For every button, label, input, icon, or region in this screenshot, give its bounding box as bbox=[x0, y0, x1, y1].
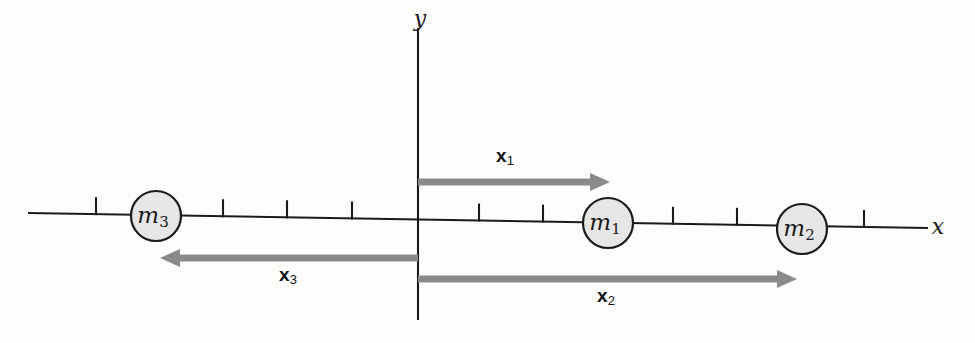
vector-x3-subscript: 3 bbox=[290, 272, 297, 287]
vector-x1-subscript: 1 bbox=[507, 153, 514, 168]
mass-m3-subscript: 3 bbox=[159, 213, 169, 231]
y-axis-label: y bbox=[413, 6, 427, 31]
vector-x1-label: x1 bbox=[496, 145, 514, 168]
vector-x2-symbol: x bbox=[597, 285, 608, 306]
mass-m3: m3 bbox=[131, 191, 181, 241]
vector-x3: x3 bbox=[160, 249, 418, 287]
vector-x3-arrowhead bbox=[160, 249, 180, 267]
figure-canvas: x y x1 x2 x3 m3 bbox=[0, 0, 975, 343]
mass-m1-subscript: 1 bbox=[611, 220, 621, 238]
mass-m2-symbol: m bbox=[783, 215, 805, 241]
vector-x2-label: x2 bbox=[597, 285, 615, 308]
masses-group: m3 m1 m2 bbox=[131, 191, 827, 254]
vector-x2: x2 bbox=[418, 270, 797, 308]
vector-x1: x1 bbox=[418, 145, 610, 191]
mass-m1: m1 bbox=[583, 198, 633, 248]
vector-x2-arrowhead bbox=[777, 270, 797, 288]
mass-m1-symbol: m bbox=[589, 209, 611, 235]
mass-m2: m2 bbox=[777, 204, 827, 254]
tick-marks-group bbox=[96, 197, 864, 228]
vector-x3-symbol: x bbox=[279, 264, 290, 285]
vector-x3-label: x3 bbox=[279, 264, 297, 287]
vectors-group: x1 x2 x3 bbox=[160, 145, 797, 308]
mass-m3-symbol: m bbox=[137, 202, 159, 228]
physics-vector-diagram: x y x1 x2 x3 m3 bbox=[0, 0, 975, 343]
vector-x1-symbol: x bbox=[496, 145, 507, 166]
vector-x1-arrowhead bbox=[590, 173, 610, 191]
vector-x2-subscript: 2 bbox=[608, 293, 615, 308]
x-axis-label: x bbox=[932, 214, 945, 239]
mass-m2-subscript: 2 bbox=[805, 226, 815, 244]
axis-labels-group: x y bbox=[413, 6, 945, 239]
